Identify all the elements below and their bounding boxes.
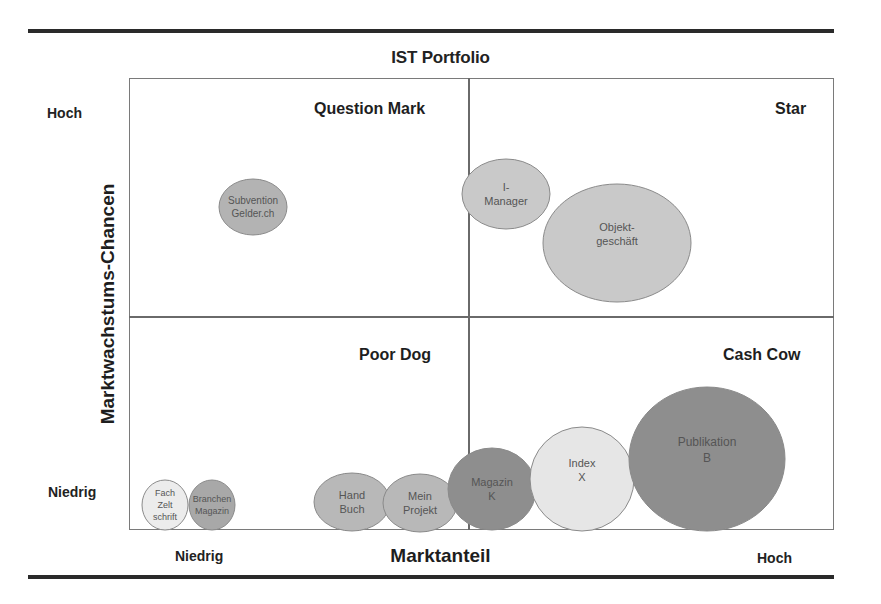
bubble-label: Zelt xyxy=(157,500,173,510)
bubble-label: Objekt- xyxy=(599,221,635,233)
bubble-label: X xyxy=(578,471,586,483)
bubble-label: K xyxy=(488,490,496,502)
bubble-label: Index xyxy=(569,457,596,469)
bubble-layer: SubventionGelder.chI-ManagerObjekt-gesch… xyxy=(0,0,881,604)
bubble-shape xyxy=(462,159,550,229)
bubble-label: Magazin xyxy=(471,476,513,488)
bubble-fach-zelt-schrift: FachZeltschrift xyxy=(142,480,188,530)
bubble-label: Subvention xyxy=(228,195,278,206)
bubble-label: I- xyxy=(503,181,510,193)
bubble-objekt-gesch-ft: Objekt-geschäft xyxy=(543,184,691,302)
bubble-label: schrift xyxy=(153,512,178,522)
bubble-shape xyxy=(314,473,390,531)
bubble-label: Manager xyxy=(484,195,528,207)
bubble-shape xyxy=(448,448,536,530)
bubble-label: Publikation xyxy=(678,435,737,449)
bubble-label: Branchen xyxy=(193,494,232,504)
bubble-shape xyxy=(383,474,457,532)
bubble-i-manager: I-Manager xyxy=(462,159,550,229)
bubble-publikation-b: PublikationB xyxy=(629,387,785,531)
bubble-index-x: IndexX xyxy=(530,427,634,531)
bubble-magazin-k: MagazinK xyxy=(448,448,536,530)
bubble-subvention-gelder-ch: SubventionGelder.ch xyxy=(219,179,287,235)
bubble-label: Buch xyxy=(339,503,364,515)
bubble-label: Mein xyxy=(408,490,432,502)
bubble-label: Magazin xyxy=(195,506,229,516)
bubble-label: geschäft xyxy=(596,235,638,247)
bubble-hand-buch: HandBuch xyxy=(314,473,390,531)
bubble-label: B xyxy=(703,451,711,465)
bubble-branchen-magazin: BranchenMagazin xyxy=(189,480,235,530)
bottom-rule xyxy=(28,575,834,579)
bubble-label: Gelder.ch xyxy=(232,208,275,219)
bubble-shape xyxy=(189,480,235,530)
bubble-mein-projekt: MeinProjekt xyxy=(383,474,457,532)
bubble-label: Projekt xyxy=(403,504,437,516)
bubble-label: Fach xyxy=(155,488,175,498)
bubble-shape xyxy=(219,179,287,235)
bubble-label: Hand xyxy=(339,489,365,501)
